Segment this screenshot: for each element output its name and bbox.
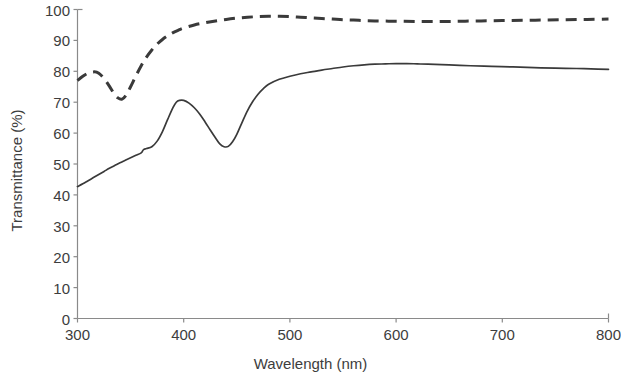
axis-lines <box>78 10 609 319</box>
x-tick-label-300: 300 <box>65 326 90 343</box>
x-tick-label-600: 600 <box>384 326 409 343</box>
y-tick-label-90: 90 <box>20 32 70 49</box>
y-tick-label-20: 20 <box>20 248 70 265</box>
x-tick-label-400: 400 <box>171 326 196 343</box>
x-tick-label-500: 500 <box>277 326 302 343</box>
y-axis-title: Transmittance (%) <box>8 112 25 232</box>
y-tick-label-30: 30 <box>20 217 70 234</box>
y-tick-label-40: 40 <box>20 186 70 203</box>
y-tick-label-100: 100 <box>20 1 70 18</box>
y-tick-label-60: 60 <box>20 125 70 142</box>
series-solid-curve <box>78 64 609 187</box>
series-dashed-curve <box>78 16 609 99</box>
x-tick-label-800: 800 <box>596 326 621 343</box>
y-tick-label-70: 70 <box>20 94 70 111</box>
chart-plot-area <box>0 0 621 374</box>
x-tick-label-700: 700 <box>490 326 515 343</box>
data-series-group <box>78 16 609 186</box>
y-tick-label-10: 10 <box>20 279 70 296</box>
y-tick-label-0: 0 <box>20 310 70 327</box>
axis-ticks <box>74 10 609 323</box>
transmittance-spectrum-chart: 0102030405060708090100 30040050060070080… <box>0 0 621 374</box>
y-tick-label-50: 50 <box>20 156 70 173</box>
y-tick-label-80: 80 <box>20 63 70 80</box>
x-axis-title: Wavelength (nm) <box>0 355 621 372</box>
